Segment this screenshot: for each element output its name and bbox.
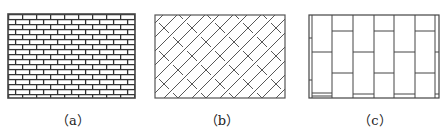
running-bond-pattern-diagram — [7, 13, 137, 100]
panel-c-vertical-bond — [308, 14, 442, 100]
vertical-bond-pattern-diagram — [308, 14, 442, 100]
diagonal-herringbone-pattern-diagram — [154, 14, 288, 100]
panel-a-running-bond — [7, 13, 137, 100]
panel-b-diagonal-herringbone — [154, 14, 288, 100]
caption-a: （a） — [43, 110, 103, 129]
caption-b: （b） — [192, 110, 252, 129]
caption-c: （c） — [345, 110, 405, 129]
